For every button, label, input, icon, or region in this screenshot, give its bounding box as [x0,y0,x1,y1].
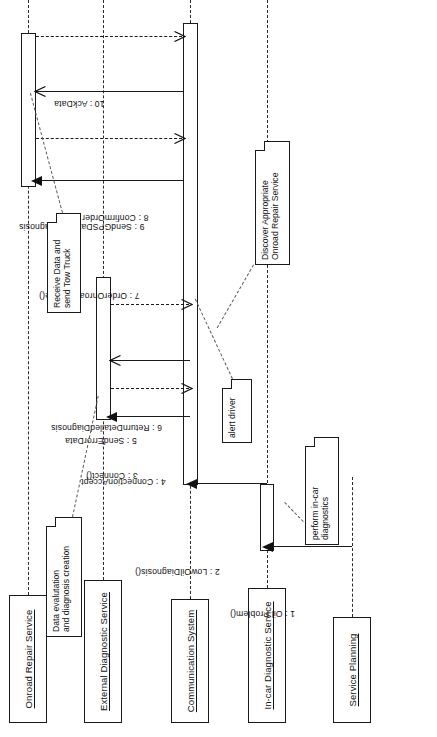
lifeline-head-onroad-repair-service[interactable]: Onroad Repair Service [9,595,47,723]
note-fold-corner [305,437,315,447]
note-anchor-perform-in-car-diagnostics [284,502,303,522]
diagram-page: Service Planning In-car Diagnostic Servi… [0,0,437,737]
message-9-label: 9 : SendGPSDataAndDiagnosis [19,222,157,232]
note-text: alert driver [227,384,237,438]
note-text: perform in-car diagnostics [310,442,331,540]
arrowhead-filled [262,542,273,552]
note-receive-data[interactable]: Receive Data and send Tow Truck [47,213,81,313]
arrowhead-filled [106,412,117,422]
message-10-label: 10 : AckData [54,99,124,109]
lifeline-label: External Diagnostic Service [98,592,109,711]
lifeline-head-external-diagnostic-service[interactable]: External Diagnostic Service [84,580,122,723]
lifeline-head-service-planning[interactable]: Service Planning [333,617,371,723]
message-2-label: 2 : LowOilDiagnosis() [135,567,225,577]
lifeline-label: Service Planning [347,634,358,707]
note-alert-driver[interactable]: alert driver [222,379,252,443]
note-text: Discover Appropriate Onroad Repair Servi… [260,146,281,260]
note-text: Data evalutation and diagnosis creation [51,522,72,632]
note-text: Receive Data and send Tow Truck [52,218,73,308]
note-anchor-data-evaluation [72,396,99,517]
arrowhead-open [174,133,186,144]
message-1-label: 1 : Oil Problem() [230,609,300,619]
arrowhead-open [181,299,193,310]
note-anchor-discover-service [217,265,254,329]
arrowhead-open [34,86,46,97]
message-6-label: 6 : ReturnDetailedDiagnosis [51,423,177,433]
note-fold-corner [255,141,265,151]
arrowhead-filled [31,176,42,186]
lifeline-line-service-planning [352,477,353,617]
note-discover-service[interactable]: Discover Appropriate Onroad Repair Servi… [255,141,290,265]
message-5-label: 5 : SendErrorData [65,436,148,446]
message-4-label: 4 : ConnectionAccept [81,477,177,487]
arrowhead-filled [186,479,197,489]
arrowhead-open [109,355,121,366]
arrowhead-open [174,31,186,42]
lifeline-label: Onroad Repair Service [23,610,34,709]
note-fold-corner [46,517,56,527]
lifeline-head-communication-system[interactable]: Communication System [171,599,209,723]
arrowhead-open [181,383,193,394]
note-perform-in-car-diagnostics[interactable]: perform in-car diagnostics [305,437,339,545]
note-fold-corner [222,379,232,389]
lifeline-label: Communication System [185,610,196,712]
activation-in-car-diagnostic-service [260,484,274,551]
note-fold-corner [47,213,57,223]
note-data-evaluation[interactable]: Data evalutation and diagnosis creation [46,517,82,637]
sequence-diagram-canvas: Service Planning In-car Diagnostic Servi… [0,0,437,737]
